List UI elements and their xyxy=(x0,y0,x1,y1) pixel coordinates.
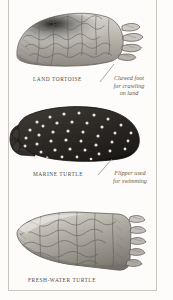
freshwater-turtle-engraving xyxy=(14,208,148,276)
land-tortoise-engraving xyxy=(14,8,144,70)
annotation-clawed-foot-line-1: Clawed foot xyxy=(100,74,158,82)
annotation-flipper: Flipper used for swimming xyxy=(100,169,160,184)
illustration-plate: Land tortoise Clawed foot for crawling o… xyxy=(0,0,173,300)
annotation-clawed-foot-line-2: for crawling xyxy=(100,82,158,90)
marine-turtle-engraving xyxy=(8,102,144,168)
caption-freshwater-turtle: Fresh-water turtle xyxy=(28,277,96,283)
figure-freshwater-turtle xyxy=(14,208,148,276)
annotation-flipper-line-1: Flipper used xyxy=(100,169,160,177)
figure-land-tortoise xyxy=(14,8,144,70)
caption-marine-turtle: Marine turtle xyxy=(33,171,83,177)
annotation-flipper-line-2: for swimming xyxy=(100,177,160,185)
annotation-clawed-foot: Clawed foot for crawling on land xyxy=(100,74,158,97)
annotation-clawed-foot-line-3: on land xyxy=(100,89,158,97)
figure-marine-turtle xyxy=(8,102,144,168)
caption-land-tortoise: Land tortoise xyxy=(33,76,82,82)
